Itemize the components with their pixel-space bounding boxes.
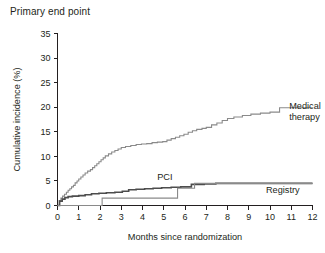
y-axis: 05101520253035 xyxy=(40,29,57,211)
series-label-pci: PCI xyxy=(157,172,172,182)
x-tick-label: 0 xyxy=(55,212,60,222)
series-labels: MedicaltherapyPCIRegistry xyxy=(157,101,321,195)
y-tick-label: 30 xyxy=(40,53,50,63)
y-tick-label: 35 xyxy=(40,29,50,39)
figure-panel: Primary end point 05101520253035 0123456… xyxy=(0,0,325,253)
x-tick-label: 1 xyxy=(76,212,81,222)
x-tick-label: 8 xyxy=(225,212,230,222)
x-tick-label: 6 xyxy=(182,212,187,222)
y-tick-label: 20 xyxy=(40,102,50,112)
y-tick-label: 25 xyxy=(40,78,50,88)
y-axis-title: Cumulative incidence (%) xyxy=(12,67,22,171)
y-tick-label: 5 xyxy=(45,176,50,186)
x-tick-label: 12 xyxy=(307,212,317,222)
x-tick-label: 9 xyxy=(246,212,251,222)
x-tick-label: 4 xyxy=(140,212,145,222)
x-tick-label: 7 xyxy=(204,212,209,222)
y-tick-label: 15 xyxy=(40,127,50,137)
y-tick-label: 10 xyxy=(40,152,50,162)
x-tick-label: 10 xyxy=(265,212,275,222)
x-tick-label: 2 xyxy=(97,212,102,222)
x-tick-label: 3 xyxy=(119,212,124,222)
chart-canvas: 05101520253035 0123456789101112 Medicalt… xyxy=(0,0,325,253)
x-tick-label: 5 xyxy=(161,212,166,222)
x-tick-label: 11 xyxy=(287,212,296,222)
y-tick-label: 0 xyxy=(45,201,50,211)
series-label-medical-therapy: Medicaltherapy xyxy=(289,101,321,122)
x-axis-title: Months since randomization xyxy=(128,232,242,242)
series-label-registry: Registry xyxy=(266,185,300,195)
x-axis: 0123456789101112 xyxy=(55,206,318,223)
